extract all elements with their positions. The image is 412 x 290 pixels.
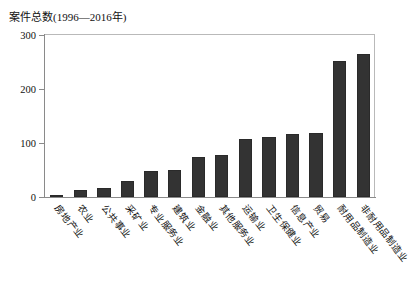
y-axis-label-100: 100 xyxy=(0,138,36,149)
chart-title: 案件总数(1996—2016年) xyxy=(9,8,126,24)
bar-金融业 xyxy=(192,157,205,197)
bar-专业服务业 xyxy=(144,171,157,197)
bar-slot xyxy=(168,35,181,197)
bar-slot xyxy=(144,35,157,197)
bar-slot xyxy=(97,35,110,197)
y-axis-label-300: 300 xyxy=(0,30,36,41)
y-axis-label-0: 0 xyxy=(0,192,36,203)
bar-信息产业 xyxy=(286,134,299,197)
bar-其他服务业 xyxy=(215,155,228,197)
y-axis-tick-200 xyxy=(39,89,44,90)
y-axis-tick-100 xyxy=(39,143,44,144)
bar-slot xyxy=(357,35,370,197)
x-axis-line xyxy=(44,197,376,198)
bar-series xyxy=(45,35,375,197)
y-axis-tick-300 xyxy=(39,35,44,36)
bar-slot xyxy=(309,35,322,197)
bar-slot xyxy=(215,35,228,197)
bar-slot xyxy=(50,35,63,197)
y-axis-label-200: 200 xyxy=(0,84,36,95)
bar-农业 xyxy=(74,190,87,197)
bar-建筑业 xyxy=(168,170,181,197)
bar-slot xyxy=(121,35,134,197)
bar-slot xyxy=(239,35,252,197)
bar-slot xyxy=(286,35,299,197)
bar-房地产业 xyxy=(50,195,63,197)
x-axis-tick-labels: 房地产业农业公共事业采矿业专业服务业建筑业金融业其他服务业运输业卫生保健业信息产… xyxy=(45,199,375,287)
bar-非耐用品制造业 xyxy=(357,54,370,197)
bar-贸易 xyxy=(309,133,322,197)
bar-公共事业 xyxy=(97,188,110,197)
bar-slot xyxy=(192,35,205,197)
x-axis-label-金融业: 金融业 xyxy=(193,201,223,233)
bar-耐用品制造业 xyxy=(333,61,346,197)
bar-运输业 xyxy=(239,139,252,197)
bar-slot xyxy=(333,35,346,197)
bar-slot xyxy=(74,35,87,197)
y-axis-tick-0 xyxy=(39,197,44,198)
bar-采矿业 xyxy=(121,181,134,197)
bar-slot xyxy=(262,35,275,197)
bar-卫生保健业 xyxy=(262,137,275,197)
